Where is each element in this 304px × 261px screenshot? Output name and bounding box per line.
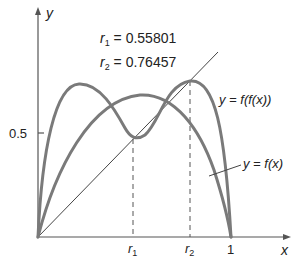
- y-axis-label: y: [45, 5, 54, 21]
- label-f-x: y = f(x): [242, 156, 283, 171]
- y-axis-arrow-icon: [35, 7, 41, 15]
- curve-f-x: [38, 95, 231, 237]
- x-axis-arrow-icon: [283, 234, 291, 240]
- x-tick-label-r2: r2: [185, 241, 194, 258]
- x-tick-label-r1: r1: [128, 241, 137, 258]
- x-axis-label: x: [280, 242, 289, 258]
- r2-value-annotation: r2 = 0.76457: [100, 54, 176, 72]
- x-tick-label-one: 1: [227, 242, 234, 257]
- label-f-f-x: y = f(f(x)): [218, 92, 271, 107]
- period-two-diagram: y x 0.5 r1 r2 1 r1 = 0.55801 r2 = 0.7645…: [0, 0, 304, 261]
- y-tick-label: 0.5: [9, 126, 27, 141]
- r1-value-annotation: r1 = 0.55801: [100, 30, 176, 48]
